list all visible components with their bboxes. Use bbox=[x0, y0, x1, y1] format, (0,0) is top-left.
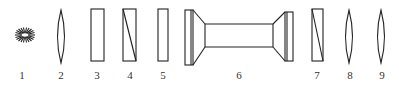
plate-rectangle-icon bbox=[158, 9, 168, 61]
element-label-2: 2 bbox=[58, 69, 64, 81]
element-label-7: 7 bbox=[314, 69, 320, 81]
prism-plate-icon bbox=[312, 9, 323, 61]
light-source-starburst-icon bbox=[15, 28, 35, 43]
lens-icon bbox=[346, 10, 353, 63]
element-label-5: 5 bbox=[160, 69, 166, 81]
element-label-3: 3 bbox=[94, 69, 100, 81]
element-label-6: 6 bbox=[236, 69, 242, 81]
lens-icon bbox=[378, 10, 385, 63]
element-label-1: 1 bbox=[19, 69, 25, 81]
element-label-4: 4 bbox=[127, 69, 133, 81]
tube-cell-icon bbox=[185, 10, 293, 65]
element-label-9: 9 bbox=[379, 69, 385, 81]
lens-icon bbox=[58, 10, 65, 63]
plate-rectangle-icon bbox=[91, 9, 104, 61]
element-label-8: 8 bbox=[347, 69, 353, 81]
prism-plate-icon bbox=[123, 9, 136, 61]
optical-system-diagram: 1 2 3 4 5 6 7 8 9 bbox=[0, 0, 399, 85]
